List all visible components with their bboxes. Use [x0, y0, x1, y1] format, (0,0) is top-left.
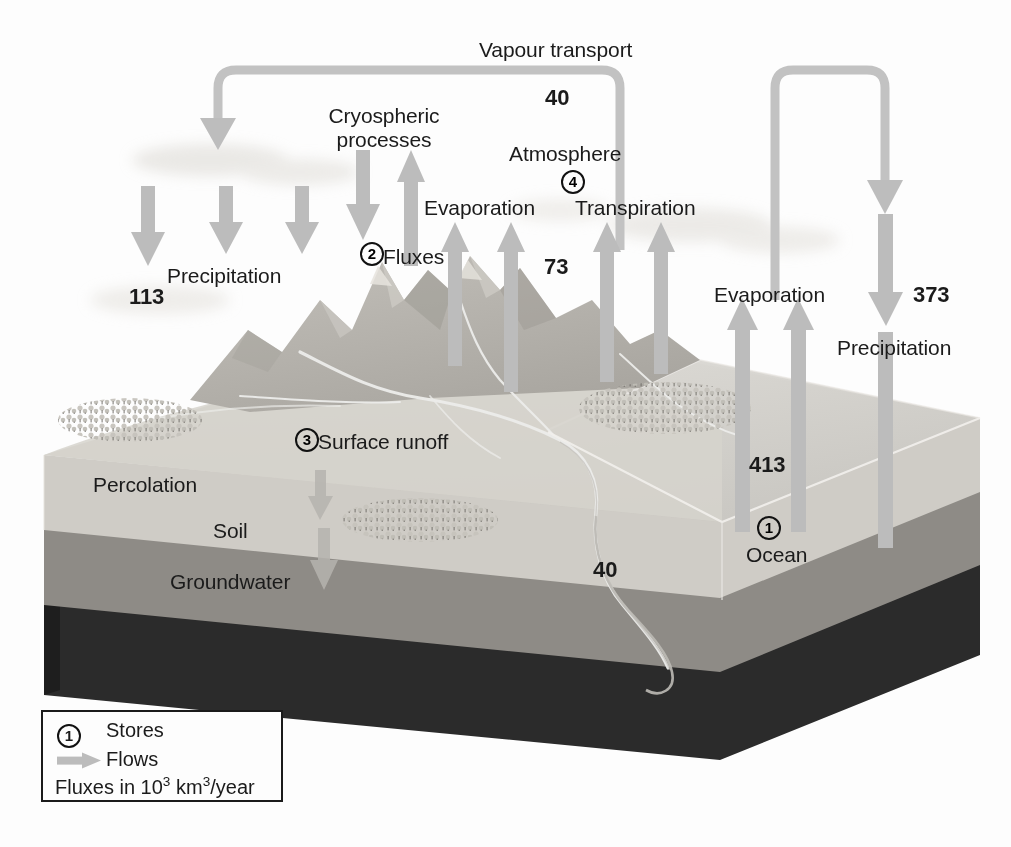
precipitation-ocean-arrow [868, 214, 903, 548]
store-marker-ocean: 1 [757, 516, 781, 540]
legend-units-prefix: Fluxes in 10 [55, 776, 163, 798]
label-precipitation-land: Precipitation [167, 264, 281, 288]
legend-units-exp1: 3 [163, 774, 171, 789]
legend-flows-arrow-icon [57, 752, 101, 769]
label-groundwater: Groundwater [170, 570, 290, 594]
store-marker-atmosphere-number: 4 [561, 170, 585, 194]
label-cryospheric-line1: Cryospheric [322, 104, 446, 128]
value-vapour-transport: 40 [545, 86, 569, 111]
legend-stores-marker: 1 [57, 720, 81, 748]
label-evaporation-land: Evaporation [424, 196, 535, 220]
label-surface-runoff: Surface runoff [318, 430, 448, 454]
runoff-channel [595, 516, 672, 693]
legend-flows-label: Flows [106, 748, 158, 771]
value-precipitation-land: 113 [129, 285, 164, 310]
legend-units-mid: km [176, 776, 203, 798]
transpiration-arrows [593, 222, 675, 382]
label-fluxes: Fluxes [383, 245, 444, 269]
percolation-arrows [308, 470, 338, 590]
vapour-arrowhead-right [867, 180, 903, 214]
store-marker-fluxes-number: 2 [360, 242, 384, 266]
store-marker-ocean-number: 1 [757, 516, 781, 540]
legend-units-suffix: /year [210, 776, 254, 798]
label-soil: Soil [213, 519, 248, 543]
label-atmosphere: Atmosphere [509, 142, 621, 166]
legend-units: Fluxes in 103 km3/year [55, 774, 255, 799]
label-percolation: Percolation [93, 473, 197, 497]
legend-stores-number: 1 [57, 724, 81, 748]
store-marker-fluxes: 2 [360, 242, 384, 266]
legend-stores-label: Stores [106, 719, 164, 742]
water-cycle-diagram: Vapour transport 40 Cryospheric processe… [0, 0, 1011, 847]
value-precipitation-ocean: 373 [913, 283, 949, 308]
precipitation-land-arrows [131, 150, 380, 266]
label-ocean: Ocean [746, 543, 807, 567]
evaporation-ocean-arrows [727, 298, 814, 532]
label-cryospheric-line2: processes [322, 128, 446, 152]
evaporation-land-arrows [441, 222, 525, 392]
label-vapour-transport: Vapour transport [479, 38, 632, 62]
store-marker-surface-runoff-number: 3 [295, 428, 319, 452]
label-evaporation-ocean: Evaporation [714, 283, 825, 307]
value-evaporation-ocean: 413 [749, 453, 785, 478]
label-precipitation-ocean: Precipitation [837, 336, 951, 360]
value-runoff-to-ocean: 40 [593, 558, 617, 583]
value-evapotranspiration-land: 73 [544, 255, 568, 280]
store-marker-atmosphere: 4 [561, 170, 585, 194]
label-transpiration: Transpiration [575, 196, 695, 220]
store-marker-surface-runoff: 3 [295, 428, 319, 452]
legend: 1 Stores Flows Fluxes in 103 km3/year [41, 710, 283, 802]
vapour-arrowhead-left [200, 118, 236, 150]
